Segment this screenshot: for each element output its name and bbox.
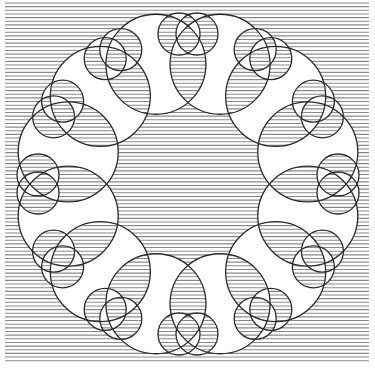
line-grating (5, 3, 369, 361)
ring-pattern (0, 0, 375, 368)
lobed-ring (17, 13, 359, 355)
